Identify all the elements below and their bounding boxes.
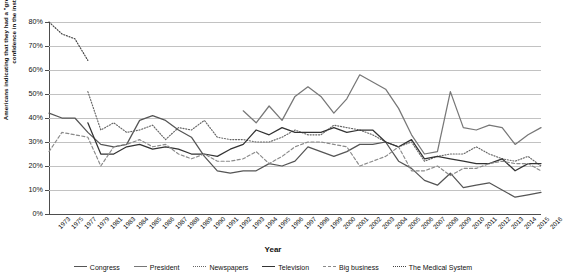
x-axis-tick-label: 1979 <box>96 216 111 231</box>
x-axis-tick-label: 1998 <box>316 216 331 231</box>
legend-swatch <box>393 266 406 267</box>
y-axis-tick <box>45 214 49 215</box>
x-axis-tick-label: 2005 <box>407 216 422 231</box>
legend-item[interactable]: Big business <box>323 263 379 272</box>
x-axis-tick-label: 2000 <box>342 216 357 231</box>
y-axis-tick-label: 70% <box>29 42 43 49</box>
legend-swatch <box>262 266 275 267</box>
legend-item[interactable]: Newspapers <box>193 263 248 272</box>
plot-area: 0%10%20%30%40%50%60%70%80% <box>49 22 541 214</box>
y-axis-title-container: Americans indicating that they had a "gr… <box>0 0 22 226</box>
legend-item[interactable]: Congress <box>74 263 120 272</box>
x-axis-title: Year <box>0 245 546 254</box>
y-axis-title: Americans indicating that they had a "gr… <box>2 0 17 128</box>
y-axis-tick-label: 10% <box>29 186 43 193</box>
y-axis-tick-label: 0% <box>33 210 43 217</box>
y-axis-tick-label: 40% <box>29 114 43 121</box>
legend-label: President <box>150 263 180 272</box>
legend-swatch <box>74 266 87 267</box>
x-axis-tick-label: 2004 <box>394 216 409 231</box>
x-axis-tick-label: 2002 <box>368 216 383 231</box>
legend-label: Newspapers <box>209 263 248 272</box>
x-axis-tick-label: 2001 <box>355 216 370 231</box>
legend-label: Big business <box>339 263 379 272</box>
x-axis-tick-label: 2011 <box>484 216 498 230</box>
x-axis-tick-label: 1983 <box>122 216 137 231</box>
x-axis-tick-label: 1981 <box>109 216 124 231</box>
x-axis-tick-label: 1986 <box>161 216 176 231</box>
y-axis-tick-label: 60% <box>29 66 43 73</box>
y-axis-tick-label: 30% <box>29 138 43 145</box>
series-line <box>49 113 541 197</box>
legend-label: The Medical System <box>409 263 472 272</box>
chart-legend: CongressPresidentNewspapersTelevisionBig… <box>0 263 546 272</box>
x-axis-tick-label: 2003 <box>381 216 396 231</box>
legend-swatch <box>193 266 206 267</box>
x-axis-tick-label: 1975 <box>70 216 85 231</box>
y-axis-tick-label: 20% <box>29 162 43 169</box>
series-line <box>49 132 541 175</box>
legend-label: Television <box>278 263 309 272</box>
y-axis-tick-label: 50% <box>29 90 43 97</box>
series-line <box>243 75 541 154</box>
legend-item[interactable]: The Medical System <box>393 263 472 272</box>
legend-item[interactable]: President <box>134 263 180 272</box>
legend-label: Congress <box>90 263 120 272</box>
legend-swatch <box>134 266 147 267</box>
x-axis-tick-label: 1999 <box>329 216 344 231</box>
x-axis-tick-label: 1984 <box>135 216 150 231</box>
x-axis-tick-label: 1977 <box>83 216 98 231</box>
y-axis-tick-label: 80% <box>29 18 43 25</box>
series-line <box>49 22 88 60</box>
x-axis-tick-label: 1985 <box>148 216 163 231</box>
x-axis-tick-label: 2016 <box>549 216 564 231</box>
legend-swatch <box>323 266 336 267</box>
series-lines <box>49 22 541 214</box>
legend-item[interactable]: Television <box>262 263 309 272</box>
